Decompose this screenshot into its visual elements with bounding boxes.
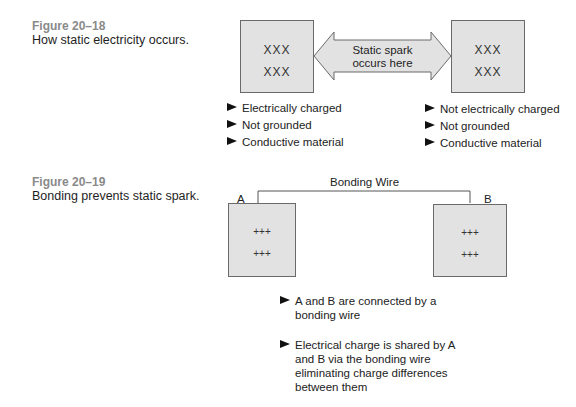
charge-row: +++ bbox=[229, 248, 295, 259]
triangle-bullet-icon bbox=[425, 121, 435, 129]
left-bullet-item: Electrically charged bbox=[227, 101, 342, 115]
charge-row: +++ bbox=[434, 227, 506, 238]
bullet-text: Electrical charge is shared by A and B v… bbox=[295, 339, 455, 393]
bonding-bullet-item: Electrical charge is shared by A and B v… bbox=[280, 338, 460, 394]
object-a: +++ +++ bbox=[228, 203, 296, 277]
uncharged-object-right: XXX XXX bbox=[451, 20, 525, 93]
figure-20-19-caption: Bonding prevents static spark. bbox=[32, 189, 199, 204]
charge-row: +++ bbox=[229, 226, 295, 237]
left-bullet-item: Not grounded bbox=[227, 118, 312, 132]
bullet-text: Not electrically charged bbox=[440, 103, 560, 115]
bonding-bullet-item: A and B are connected by a bonding wire bbox=[280, 294, 455, 322]
charge-row: XXX bbox=[452, 43, 524, 57]
triangle-bullet-icon bbox=[227, 137, 237, 145]
spark-label-line1: Static spark bbox=[334, 44, 431, 57]
triangle-bullet-icon bbox=[280, 296, 290, 304]
charge-row: +++ bbox=[434, 249, 506, 260]
bonding-wire-label: Bonding Wire bbox=[330, 176, 399, 188]
object-b: +++ +++ bbox=[433, 204, 507, 277]
left-bullet-item: Conductive material bbox=[227, 135, 344, 149]
charge-row: XXX bbox=[452, 65, 524, 79]
bullet-text: Electrically charged bbox=[242, 102, 342, 114]
bullet-text: Conductive material bbox=[242, 136, 344, 148]
figure-20-19-number: Figure 20–19 bbox=[32, 175, 105, 189]
triangle-bullet-icon bbox=[425, 104, 435, 112]
triangle-bullet-icon bbox=[227, 103, 237, 111]
bullet-text: Not grounded bbox=[242, 119, 312, 131]
triangle-bullet-icon bbox=[280, 340, 290, 348]
right-bullet-item: Not grounded bbox=[425, 119, 510, 133]
right-bullet-item: Conductive material bbox=[425, 136, 542, 150]
bullet-text: A and B are connected by a bonding wire bbox=[295, 295, 436, 321]
bullet-text: Conductive material bbox=[440, 137, 542, 149]
bullet-text: Not grounded bbox=[440, 120, 510, 132]
triangle-bullet-icon bbox=[425, 138, 435, 146]
right-bullet-item: Not electrically charged bbox=[425, 102, 560, 116]
spark-label: Static spark occurs here bbox=[334, 44, 431, 70]
spark-label-line2: occurs here bbox=[334, 57, 431, 70]
triangle-bullet-icon bbox=[227, 120, 237, 128]
